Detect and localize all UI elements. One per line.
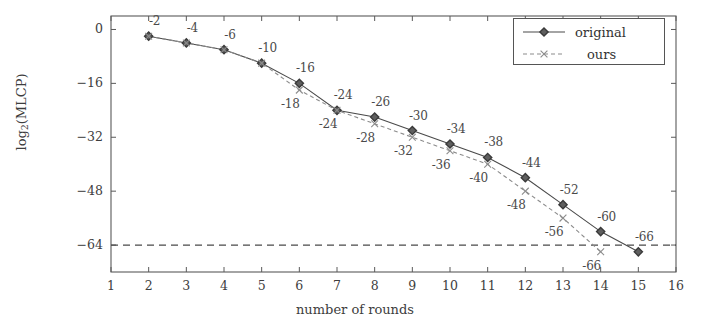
x-tick-label: 14 [581,278,621,293]
x-tick-label: 9 [392,278,432,293]
legend-entry-original: original [521,23,657,41]
y-axis-label-subscript: 2 [19,124,30,130]
marker-diamond-original [295,79,303,87]
y-tick-label: −32 [59,129,103,144]
chart-figure: log2(MLCP) number of rounds 123456789101… [0,0,710,328]
legend-entry-ours: ours [521,45,657,63]
y-tick-label: 0 [59,21,103,36]
data-label-original: -10 [248,41,288,55]
data-label-ours: -66 [572,259,612,273]
legend-label: ours [587,47,616,62]
marker-diamond-original [371,113,379,121]
marker-diamond-original [597,227,605,235]
y-axis-label-base: log [14,130,29,150]
data-label-ours: -56 [534,225,574,239]
data-label-ours: -48 [496,198,536,212]
data-label-original: -34 [436,122,476,136]
x-tick-label: 7 [317,278,357,293]
y-axis-label-tail: (MLCP) [14,73,29,124]
data-label-original: -30 [398,109,438,123]
x-axis-label: number of rounds [0,302,710,317]
data-label-original: -60 [587,210,627,224]
data-label-original: -66 [624,230,664,244]
data-label-original: -4 [172,21,212,35]
data-label-original: -52 [549,183,589,197]
marker-diamond-original [559,201,567,209]
data-label-ours: -28 [346,131,386,145]
data-label-original: -44 [511,156,551,170]
marker-diamond-original [634,248,642,256]
data-label-original: -6 [210,28,250,42]
x-tick-label: 1 [91,278,131,293]
data-label-original: -38 [474,135,514,149]
marker-diamond-original [484,153,492,161]
marker-diamond-original [408,126,416,134]
x-tick-label: 16 [656,278,696,293]
marker-diamond-original [521,174,529,182]
legend-swatch-diamond-icon [521,24,567,40]
x-tick-label: 6 [279,278,319,293]
x-tick-label: 4 [204,278,244,293]
data-label-ours: -24 [308,117,348,131]
y-tick-label: −16 [59,75,103,90]
x-tick-label: 2 [129,278,169,293]
y-tick-label: −64 [59,237,103,252]
data-label-original: -24 [323,88,363,102]
x-tick-label: 10 [430,278,470,293]
legend-label: original [575,25,626,40]
x-tick-label: 15 [618,278,658,293]
x-tick-label: 8 [355,278,395,293]
x-tick-label: 5 [242,278,282,293]
x-tick-label: 11 [468,278,508,293]
y-tick-label: −48 [59,183,103,198]
data-label-original: -16 [285,61,325,75]
x-tick-label: 13 [543,278,583,293]
data-label-ours: -36 [421,158,461,172]
data-label-ours: -18 [270,97,310,111]
marker-diamond-original [446,140,454,148]
legend-swatch-cross-icon [521,46,567,62]
data-label-original: -26 [361,95,401,109]
data-label-ours: -40 [459,171,499,185]
x-tick-label: 3 [166,278,206,293]
x-tick-label: 12 [505,278,545,293]
data-label-ours: -32 [383,144,423,158]
data-label-original: -2 [135,14,175,28]
